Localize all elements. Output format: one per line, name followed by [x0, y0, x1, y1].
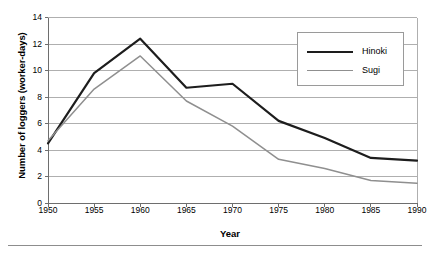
x-tick-label: 1950: [28, 206, 68, 215]
y-tick-label: 6: [20, 119, 42, 128]
y-tick-label: 4: [20, 146, 42, 155]
x-tick-label: 1960: [120, 206, 160, 215]
footer-divider: [8, 245, 422, 246]
x-tick-label: 1980: [305, 206, 345, 215]
y-tick-label: 8: [20, 93, 42, 102]
line-chart: Number of loggers (worker-days) 02468101…: [0, 0, 430, 253]
y-tick-label: 10: [20, 66, 42, 75]
legend-label-sugi: Sugi: [362, 65, 380, 75]
y-tick-label: 12: [20, 40, 42, 49]
x-tick-label: 1965: [166, 206, 206, 215]
legend-item-hinoki: Hinoki: [298, 45, 405, 59]
x-tick-label: 1990: [397, 206, 430, 215]
y-tick-label: 14: [20, 13, 42, 22]
x-tick-label: 1975: [259, 206, 299, 215]
legend-item-sugi: Sugi: [298, 64, 405, 78]
x-tick-label: 1970: [213, 206, 253, 215]
x-tick-label: 1985: [351, 206, 391, 215]
chart-legend: Hinoki Sugi: [297, 32, 404, 86]
x-tick-label: 1955: [74, 206, 114, 215]
legend-label-hinoki: Hinoki: [362, 46, 387, 56]
x-axis-title: Year: [45, 228, 415, 239]
legend-swatch-hinoki: [307, 51, 353, 53]
y-tick-label: 2: [20, 172, 42, 181]
legend-swatch-sugi: [307, 70, 353, 71]
